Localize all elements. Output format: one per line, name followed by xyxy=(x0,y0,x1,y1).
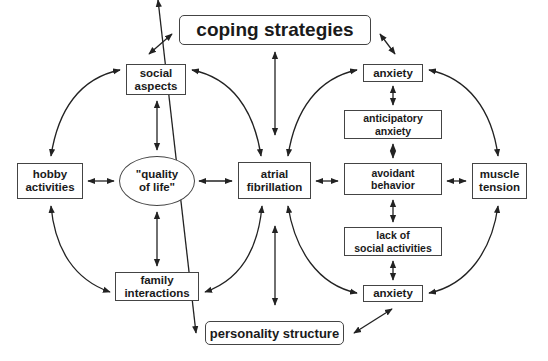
node-label: family xyxy=(140,274,173,287)
node-atrial-fibrillation: atrial fibrillation xyxy=(238,162,311,199)
node-lack-of-social-activities: lack of social activities xyxy=(344,227,442,256)
node-label: tension xyxy=(479,181,520,194)
node-anxiety-top: anxiety xyxy=(363,64,423,82)
node-social-aspects: social aspects xyxy=(126,64,186,95)
node-label: hobby xyxy=(33,168,68,181)
node-label: behavior xyxy=(371,179,415,192)
node-quality-of-life: "quality of life" xyxy=(119,156,195,206)
node-label: of life" xyxy=(139,181,175,194)
node-label: lack of xyxy=(376,229,409,242)
node-label: fibrillation xyxy=(247,181,303,194)
node-label: anxiety xyxy=(375,125,411,138)
node-family-interactions: family interactions xyxy=(115,272,199,301)
node-hobby-activities: hobby activities xyxy=(17,163,83,199)
node-label: anticipatory xyxy=(363,112,423,125)
node-label: muscle xyxy=(480,168,520,181)
node-avoidant-behavior: avoidant behavior xyxy=(344,163,442,195)
node-label: social activities xyxy=(354,242,432,255)
node-label: activities xyxy=(25,181,74,194)
node-coping-strategies: coping strategies xyxy=(179,15,371,45)
node-label: "quality xyxy=(136,168,179,181)
node-label: avoidant xyxy=(371,167,414,180)
node-label: atrial xyxy=(261,168,289,181)
node-label: anxiety xyxy=(373,67,413,80)
node-anxiety-bottom: anxiety xyxy=(363,285,423,302)
node-label: interactions xyxy=(124,287,189,300)
node-label: social xyxy=(140,67,173,80)
node-label: anxiety xyxy=(373,287,413,300)
node-muscle-tension: muscle tension xyxy=(472,163,527,199)
node-anticipatory-anxiety: anticipatory anxiety xyxy=(344,110,442,139)
node-label: aspects xyxy=(135,80,178,93)
node-label: personality structure xyxy=(210,326,339,341)
node-personality-structure: personality structure xyxy=(205,321,344,345)
node-label: coping strategies xyxy=(196,19,353,41)
